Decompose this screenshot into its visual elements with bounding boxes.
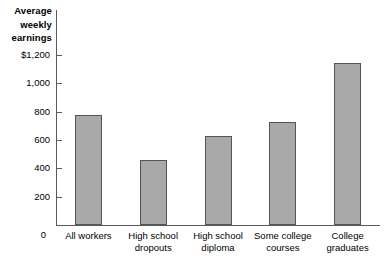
bar-2	[205, 136, 232, 225]
y-axis-title-line-1: Average	[0, 4, 52, 18]
y-axis-tick-1200	[57, 55, 62, 56]
y-axis-tick-600	[57, 140, 62, 141]
bar-3	[269, 122, 296, 225]
x-axis-label-4: Collegegraduates	[303, 230, 388, 254]
y-axis-title-line-3: earnings	[0, 31, 52, 45]
bar-1	[140, 160, 167, 225]
y-axis-tick-1000	[57, 83, 62, 84]
y-axis-tick-800	[57, 112, 62, 113]
y-axis-tick-label-800: 800	[0, 107, 50, 117]
y-axis-tick-label-600: 600	[0, 135, 50, 145]
y-axis-tick-400	[57, 168, 62, 169]
y-axis-tick-label-0: 0	[22, 229, 46, 240]
bar-0	[75, 115, 102, 225]
x-axis-line	[56, 225, 380, 226]
bar-chart: Average weekly earnings 2004006008001,00…	[0, 0, 388, 261]
x-axis-label-4-line-0: College	[303, 230, 388, 242]
y-axis-tick-label-1200: $1,200	[0, 50, 50, 60]
y-axis-title: Average weekly earnings	[0, 4, 52, 45]
y-axis-tick-label-400: 400	[0, 163, 50, 173]
bar-4	[334, 63, 361, 225]
y-axis-tick-200	[57, 197, 62, 198]
y-axis-line	[56, 10, 57, 225]
x-axis-label-4-line-1: graduates	[303, 242, 388, 254]
y-axis-title-line-2: weekly	[0, 18, 52, 32]
y-axis-tick-label-200: 200	[0, 192, 50, 202]
y-axis-tick-label-1000: 1,000	[0, 78, 50, 88]
